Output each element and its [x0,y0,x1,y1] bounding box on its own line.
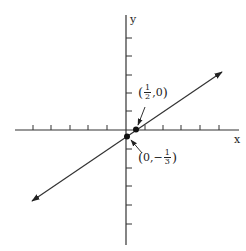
y-axis-label: y [130,14,136,25]
y-ticks [126,38,132,224]
coordinate-plot [0,0,246,251]
point-y-intercept [124,134,130,140]
fraction-one-half: 12 [144,84,151,101]
pointer-x-intercept [138,107,145,125]
fraction-one-third: 13 [164,149,171,166]
label-x-intercept: (12,0) [138,84,168,101]
label-y-intercept: (0,−13) [138,149,177,166]
x-axis-label: x [234,134,240,145]
point-x-intercept [133,127,139,133]
